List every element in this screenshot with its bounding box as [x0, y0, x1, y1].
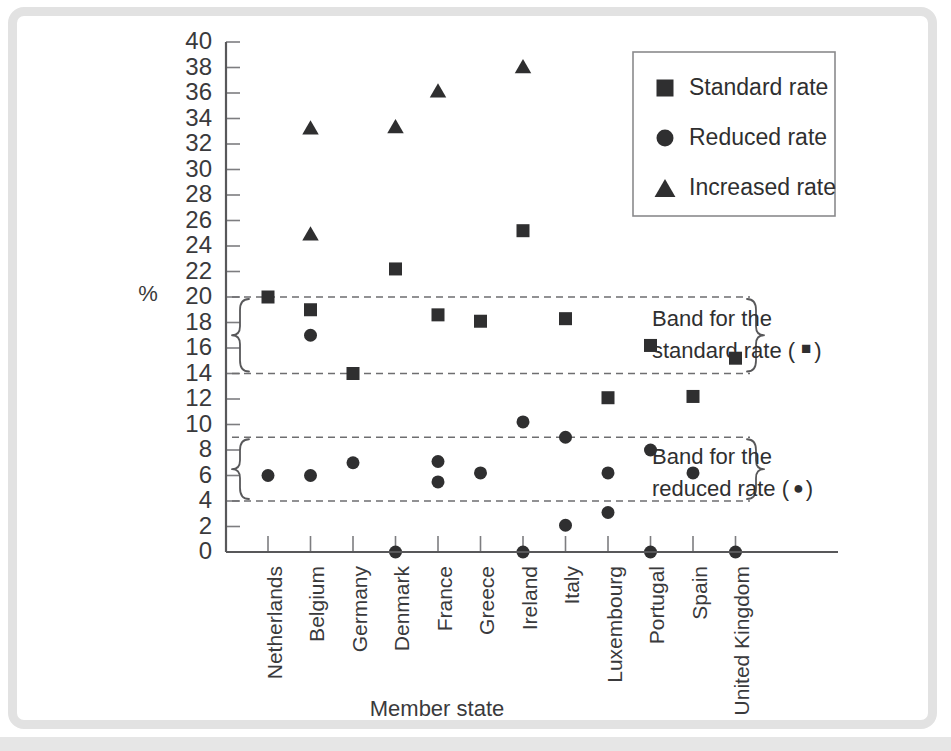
point-increased-rate-ireland-4	[515, 59, 532, 73]
y-tick-label-24: 24	[185, 231, 212, 258]
brace-left-standard	[232, 299, 249, 372]
reduced-band-line2-suffix: )	[806, 476, 813, 501]
y-tick-label-34: 34	[185, 104, 212, 131]
chart-legend: Standard rateReduced rateIncreased rate	[633, 52, 836, 216]
point-standard-rate-spain-10	[687, 390, 700, 403]
y-tick-label-10: 10	[185, 410, 212, 437]
x-tick-label-portugal: Portugal	[645, 566, 668, 644]
x-tick-label-netherlands: Netherlands	[263, 566, 286, 679]
scatter-chart-svg: 0246810121416182022242628303234363840 Ne…	[0, 0, 951, 751]
legend-label-reduced-rate: Reduced rate	[689, 124, 827, 150]
y-axis-tick-labels: 0246810121416182022242628303234363840	[185, 27, 212, 564]
x-tick-label-greece: Greece	[475, 566, 498, 635]
point-reduced-rate-germany-3	[347, 456, 360, 469]
standard-band-line2: standard rate (■)	[652, 338, 822, 363]
y-tick-label-40: 40	[185, 27, 212, 54]
legend-marker-square	[657, 80, 674, 97]
point-reduced-rate-greece-7	[474, 466, 487, 479]
point-reduced-rate-netherlands-0	[262, 469, 275, 482]
reduced-band-annotation: Band for the reduced rate (●)	[652, 444, 813, 501]
y-tick-label-22: 22	[185, 257, 212, 284]
point-reduced-rate-belgium-1	[304, 329, 317, 342]
point-reduced-rate-france-5	[432, 455, 445, 468]
standard-band-marker-square: ■	[801, 339, 811, 358]
y-tick-label-2: 2	[199, 512, 212, 539]
y-axis-ticks	[226, 42, 240, 527]
y-tick-label-20: 20	[185, 282, 212, 309]
point-standard-rate-netherlands-0	[262, 291, 275, 304]
point-standard-rate-denmark-3	[389, 262, 402, 275]
point-reduced-rate-ireland-8	[517, 415, 530, 428]
point-standard-rate-luxembourg-8	[602, 391, 615, 404]
y-tick-label-4: 4	[199, 486, 212, 513]
point-standard-rate-italy-7	[559, 312, 572, 325]
y-axis-title: %	[138, 281, 158, 306]
x-tick-label-italy: Italy	[560, 566, 583, 605]
point-standard-rate-greece-5	[474, 315, 487, 328]
standard-band-line2-suffix: )	[814, 338, 821, 363]
point-increased-rate-belgium-1	[302, 226, 319, 240]
legend-marker-circle	[657, 130, 674, 147]
point-reduced-rate-belgium-2	[304, 469, 317, 482]
x-tick-label-germany: Germany	[348, 566, 371, 653]
reduced-band-line2: reduced rate (●)	[652, 476, 813, 501]
point-reduced-rate-france-6	[432, 475, 445, 488]
screenshot-page: 0246810121416182022242628303234363840 Ne…	[0, 0, 951, 751]
point-standard-rate-france-4	[432, 308, 445, 321]
x-tick-label-united-kingdom: United Kingdom	[730, 566, 753, 715]
y-tick-label-8: 8	[199, 435, 212, 462]
x-tick-label-luxembourg: Luxembourg	[603, 566, 626, 683]
point-increased-rate-denmark-2	[387, 119, 404, 133]
legend-label-standard-rate: Standard rate	[689, 74, 828, 100]
x-axis-title: Member state	[370, 696, 505, 721]
x-tick-label-france: France	[433, 566, 456, 631]
point-standard-rate-germany-2	[347, 367, 360, 380]
brace-left-reduced	[232, 439, 249, 499]
y-tick-label-32: 32	[185, 129, 212, 156]
legend-label-increased-rate: Increased rate	[689, 174, 836, 200]
point-reduced-rate-italy-11	[559, 519, 572, 532]
y-tick-label-36: 36	[185, 78, 212, 105]
y-tick-label-26: 26	[185, 206, 212, 233]
point-reduced-rate-luxembourg-12	[602, 466, 615, 479]
point-reduced-rate-luxembourg-13	[602, 506, 615, 519]
y-tick-label-30: 30	[185, 155, 212, 182]
x-axis-tick-labels: NetherlandsBelgiumGermanyDenmarkFranceGr…	[263, 566, 754, 716]
x-tick-label-belgium: Belgium	[305, 566, 328, 642]
point-increased-rate-belgium-0	[302, 120, 319, 134]
reduced-band-line2-prefix: reduced rate (	[652, 476, 790, 501]
y-tick-label-0: 0	[199, 537, 212, 564]
y-tick-label-12: 12	[185, 384, 212, 411]
y-tick-label-28: 28	[185, 180, 212, 207]
x-axis-ticks	[268, 536, 736, 552]
y-tick-label-16: 16	[185, 333, 212, 360]
point-reduced-rate-italy-10	[559, 431, 572, 444]
point-standard-rate-ireland-6	[517, 224, 530, 237]
chart-figure: 0246810121416182022242628303234363840 Ne…	[0, 0, 951, 751]
standard-band-annotation: Band for the standard rate (■)	[652, 306, 822, 363]
y-tick-label-38: 38	[185, 53, 212, 80]
point-increased-rate-france-3	[430, 83, 447, 97]
standard-band-line1: Band for the	[652, 306, 772, 331]
reduced-band-marker-circle: ●	[793, 478, 804, 498]
point-standard-rate-belgium-1	[304, 303, 317, 316]
x-tick-label-ireland: Ireland	[518, 566, 541, 630]
y-tick-label-18: 18	[185, 308, 212, 335]
x-tick-label-spain: Spain	[688, 566, 711, 620]
y-tick-label-6: 6	[199, 461, 212, 488]
standard-band-line2-prefix: standard rate (	[652, 338, 796, 363]
reduced-band-line1: Band for the	[652, 444, 772, 469]
y-tick-label-14: 14	[185, 359, 212, 386]
x-tick-label-denmark: Denmark	[390, 566, 413, 652]
